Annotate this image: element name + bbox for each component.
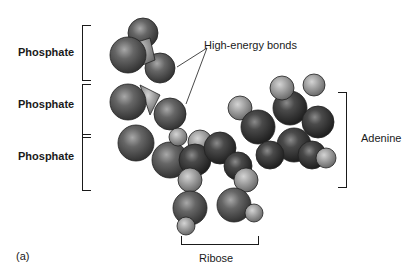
- phosphate-2-label: Phosphate: [18, 98, 74, 110]
- phosphate-2-bracket: [82, 84, 91, 138]
- phosphate-3-bracket: [82, 134, 91, 191]
- adenine-bracket: [338, 92, 347, 188]
- ribose-label: Ribose: [199, 252, 233, 264]
- bond-pointer-2: [186, 48, 207, 104]
- adenine-label: Adenine: [361, 132, 401, 144]
- bond-pointer-1: [177, 48, 207, 67]
- panel-label: (a): [16, 250, 29, 262]
- phosphate-3-label: Phosphate: [18, 150, 74, 162]
- high-energy-bonds-label: High-energy bonds: [204, 39, 297, 51]
- ribose-bracket: [181, 236, 259, 245]
- phosphate-1-bracket: [82, 25, 91, 81]
- phosphate-1-label: Phosphate: [18, 46, 74, 58]
